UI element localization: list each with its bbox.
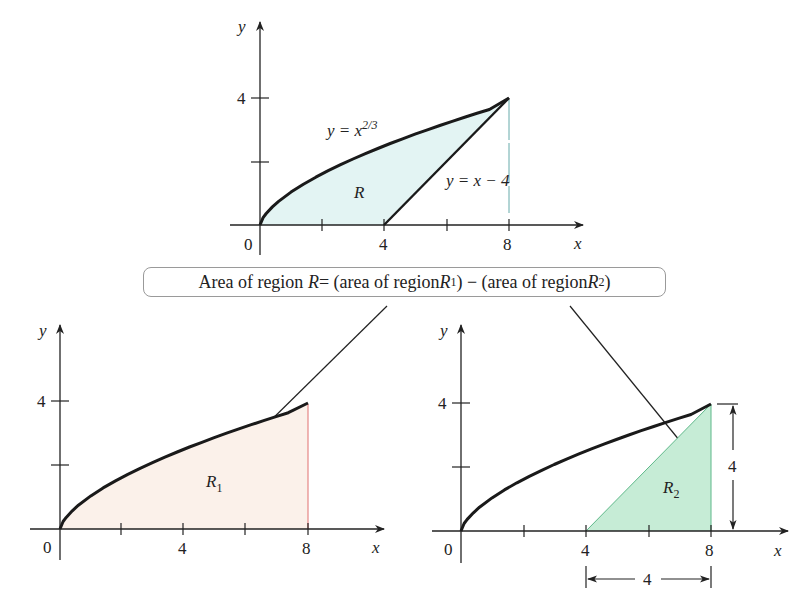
y-tick-label-4: 4 [37, 392, 46, 411]
x-axis-label: x [773, 541, 782, 560]
top-graph: y x 0 4 8 4 y = x2/3 y = x − 4 R [230, 17, 583, 255]
area-equation-caption: Area of region R = (area of region R1) −… [143, 267, 666, 297]
caption-text: ) [605, 272, 611, 293]
connector-r2 [570, 306, 684, 446]
x-tick-label-4: 4 [581, 541, 590, 560]
caption-text: Area of region [198, 272, 303, 293]
diagram-canvas: y x 0 4 8 4 y = x2/3 y = x − 4 R y x 0 4… [0, 0, 801, 595]
curve-label: y = x2/3 [325, 118, 377, 140]
caption-region-r: R [308, 272, 319, 293]
line-label: y = x − 4 [444, 171, 510, 190]
origin-label: 0 [444, 540, 453, 559]
x-tick-label-4: 4 [379, 235, 388, 254]
x-axis-label: x [573, 234, 582, 253]
y-tick-label-4: 4 [438, 394, 447, 413]
x-axis-label: x [371, 538, 380, 557]
x-tick-label-4: 4 [178, 539, 187, 558]
y-tick-label-4: 4 [237, 89, 246, 108]
caption-text: = (area of region [319, 272, 440, 293]
caption-text: ) − (area of region [456, 272, 587, 293]
y-axis-label: y [37, 321, 47, 340]
width-dim-label: 4 [643, 570, 652, 589]
caption-region-r2: R [588, 272, 599, 293]
origin-label: 0 [43, 538, 52, 557]
caption-region-r1: R [439, 272, 450, 293]
region-r-label: R [353, 183, 365, 202]
y-axis-label: y [438, 321, 448, 340]
region-r1-fill [60, 403, 308, 529]
region-r-fill [260, 98, 509, 225]
x-tick-label-8: 8 [705, 541, 714, 560]
left-graph: y x 0 4 8 4 R1 [30, 321, 384, 560]
height-dim-label: 4 [728, 457, 737, 476]
x-tick-label-8: 8 [302, 539, 311, 558]
origin-label: 0 [244, 235, 253, 254]
y-axis-label: y [236, 17, 246, 36]
x-tick-label-8: 8 [503, 235, 512, 254]
right-graph: 4 4 y x 0 4 8 4 R2 [432, 321, 788, 589]
